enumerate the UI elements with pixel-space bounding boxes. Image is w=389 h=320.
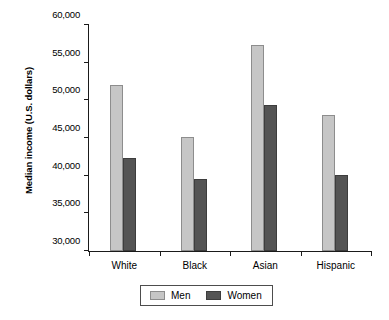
bar-chart: Median income (U.S. dollars) 30,00035,00… — [0, 0, 389, 320]
x-axis-tick — [301, 251, 302, 256]
y-axis-title: Median income (U.S. dollars) — [23, 26, 34, 236]
legend-item-men[interactable]: Men — [150, 290, 190, 301]
y-axis-tick-label: 30,000 — [52, 235, 80, 246]
y-axis-tick-label: 55,000 — [52, 46, 80, 57]
y-axis-tick-label: 35,000 — [52, 197, 80, 208]
plot-area: 30,00035,00040,00045,00050,00055,00060,0… — [88, 25, 371, 252]
y-axis-tick-label: 45,000 — [52, 122, 80, 133]
legend-swatch-men-icon — [150, 291, 165, 300]
bar-women-black — [194, 179, 207, 251]
bar-women-white — [123, 158, 136, 251]
bar-men-black — [181, 137, 194, 252]
bar-men-hispanic — [322, 115, 335, 251]
bar-women-hispanic — [335, 175, 348, 251]
legend-label: Men — [171, 290, 190, 301]
x-axis-label-white: White — [111, 260, 137, 271]
x-axis-tick — [160, 251, 161, 256]
bar-women-asian — [264, 105, 277, 251]
x-axis-label-black: Black — [183, 260, 207, 271]
bar-group — [89, 25, 160, 251]
x-axis-tick — [230, 251, 231, 256]
y-axis-tick-label: 40,000 — [52, 159, 80, 170]
x-axis-label-asian: Asian — [253, 260, 278, 271]
x-axis-tick — [89, 251, 90, 256]
x-axis-label-hispanic: Hispanic — [317, 260, 355, 271]
bars-layer — [89, 25, 371, 251]
bar-group — [230, 25, 301, 251]
bar-men-white — [110, 85, 123, 251]
legend-item-women[interactable]: Women — [206, 290, 261, 301]
y-axis-tick-label: 50,000 — [52, 84, 80, 95]
chart-legend: MenWomen — [140, 285, 273, 306]
bar-men-asian — [251, 45, 264, 251]
legend-swatch-women-icon — [206, 291, 221, 300]
bar-group — [160, 25, 231, 251]
y-axis-tick-label: 60,000 — [52, 9, 80, 20]
bar-group — [301, 25, 372, 251]
x-axis-tick — [371, 251, 372, 256]
legend-label: Women — [227, 290, 261, 301]
